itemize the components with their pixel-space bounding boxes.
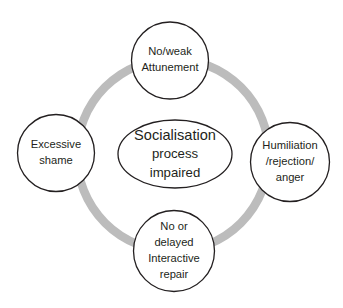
node-no-weak-attunement[interactable]: No/weak Attunement [132,22,209,99]
node-label-left-line1: Excessive [31,138,81,150]
cycle-diagram: No/weak Attunement Humiliation /rejectio… [0,0,343,308]
node-label-top-line2: Attunement [141,61,199,73]
node-label-right-line3: anger [276,171,305,183]
node-label-bottom-line4: repair [160,268,189,280]
node-label-bottom-line2: delayed [154,236,193,248]
node-excessive-shame[interactable]: Excessive shame [18,115,95,192]
node-humiliation-rejection-anger[interactable]: Humiliation /rejection/ anger [251,123,330,202]
center-label-line1: Socialisation [134,127,216,143]
center-label-line2: process [152,146,199,161]
center-label-line3: impaired [150,165,201,180]
node-label-top-line1: No/weak [148,45,192,57]
node-label-right-line1: Humiliation [262,139,317,151]
node-label-bottom-line3: Interactive [148,252,200,264]
node-label-left-line2: shame [39,154,73,166]
node-label-right-line2: /rejection/ [266,155,315,167]
node-no-or-delayed-interactive-repair[interactable]: No or delayed Interactive repair [134,211,215,292]
diagram-container: No/weak Attunement Humiliation /rejectio… [0,0,343,308]
node-socialisation-process-impaired[interactable]: Socialisation process impaired [118,120,232,188]
node-label-bottom-line1: No or [160,220,188,232]
